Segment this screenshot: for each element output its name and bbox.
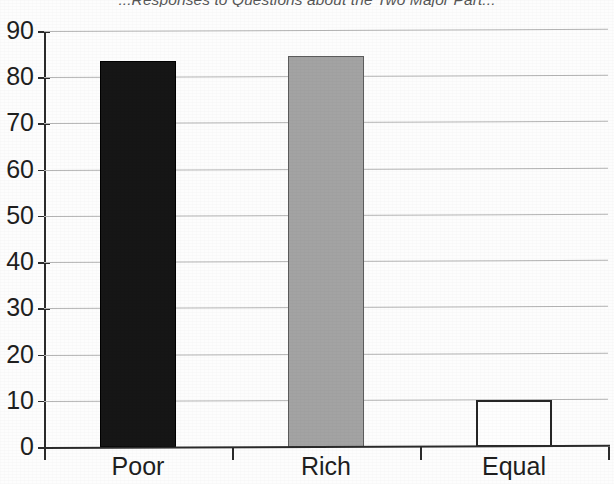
- x-axis-category-label: Poor: [44, 452, 232, 480]
- y-axis-tick-label: 10: [0, 388, 34, 413]
- bar-equal[interactable]: [476, 400, 552, 447]
- bar-poor[interactable]: [100, 61, 176, 447]
- x-axis-category-label: Equal: [420, 452, 608, 480]
- y-axis-tick-label: 50: [0, 203, 34, 228]
- bar-rich[interactable]: [288, 56, 364, 447]
- y-axis-tick-label: 20: [0, 342, 34, 367]
- y-axis-tick-label: 90: [0, 18, 34, 43]
- x-axis-tick: [608, 447, 610, 460]
- x-axis-category-label: Rich: [232, 452, 420, 480]
- y-axis-tick-label: 30: [0, 295, 34, 320]
- y-axis-tick-label: 80: [0, 64, 34, 89]
- bar-chart-figure: ...Responses to Questions about the Two …: [0, 0, 614, 484]
- y-axis-tick-label: 60: [0, 157, 34, 182]
- y-axis-tick-label: 40: [0, 249, 34, 274]
- plot-area: [44, 31, 608, 447]
- gridline: [44, 29, 608, 32]
- y-axis-tick-label: 70: [0, 110, 34, 135]
- y-axis-tick-label: 0: [0, 434, 34, 459]
- chart-title: ...Responses to Questions about the Two …: [0, 0, 614, 7]
